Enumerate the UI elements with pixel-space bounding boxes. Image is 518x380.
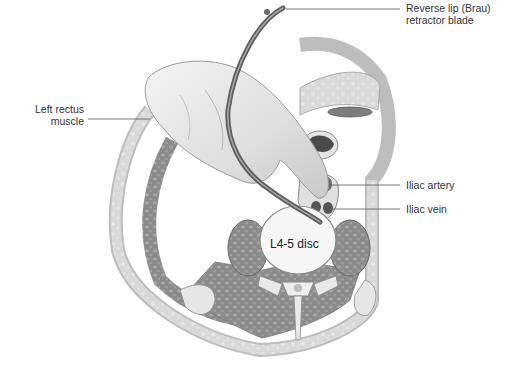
iliac-vein-label: Iliac vein: [406, 203, 447, 215]
surgeon-hand: [145, 61, 328, 198]
iliac-artery-label: Iliac artery: [406, 179, 454, 191]
retractor-blade-label: Reverse lip (Brau) retractor blade: [406, 2, 491, 26]
left-rectus-muscle-label: Left rectus muscle: [20, 103, 84, 127]
label-line: muscle: [20, 115, 84, 127]
label-line: Reverse lip (Brau): [406, 2, 491, 14]
psoas-right: [330, 220, 370, 276]
disc-label: L4-5 disc: [270, 238, 319, 250]
anatomical-figure: Reverse lip (Brau) retractor blade Left …: [0, 0, 518, 380]
label-line: retractor blade: [406, 14, 491, 26]
label-line: Left rectus: [20, 103, 84, 115]
